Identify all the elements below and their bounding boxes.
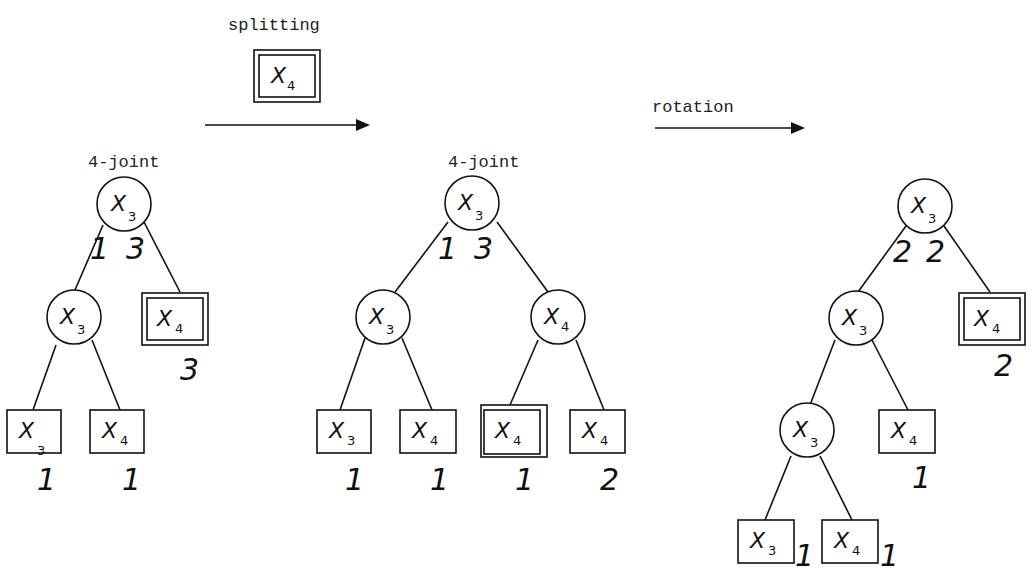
svg-text:4: 4 — [430, 433, 438, 448]
tree1-lr-leaf-count: 1 — [122, 462, 141, 497]
tree3-right-leaf-double-box: X 4 — [959, 293, 1025, 345]
svg-text:X: X — [910, 193, 927, 218]
tree1-ll-leaf: X 3 — [7, 410, 61, 458]
tree-1-before-splitting: 4-joint X 3 1 3 X 3 X 4 3 X — [7, 153, 208, 497]
tree3-llr-leaf-count: 1 — [880, 538, 899, 572]
tree3-lll-leaf: X 3 — [738, 520, 794, 563]
tree2-rr-leaf: X 4 — [570, 410, 625, 453]
tree1-root-right-weight: 3 — [126, 231, 145, 266]
svg-text:3: 3 — [810, 435, 818, 450]
tree3-lr-leaf-count: 1 — [912, 460, 931, 495]
tree1-right-leaf-double-box: X 4 — [142, 293, 208, 345]
tree1-root-left-weight: 1 — [90, 231, 109, 266]
svg-text:3: 3 — [347, 433, 355, 448]
split-item-double-box: X 4 — [254, 50, 320, 102]
svg-text:X: X — [494, 418, 511, 443]
svg-text:X: X — [749, 528, 766, 553]
rotation-label: rotation — [652, 98, 734, 117]
tree3-root-right-weight: 2 — [926, 234, 945, 269]
svg-text:3: 3 — [37, 443, 45, 458]
tree1-lr-leaf: X 4 — [90, 410, 144, 453]
svg-text:X: X — [543, 304, 560, 329]
splitting-label: splitting — [228, 16, 320, 35]
svg-text:3: 3 — [77, 322, 85, 337]
four-joint-label-middle: 4-joint — [448, 153, 519, 172]
svg-text:X: X — [18, 418, 35, 443]
svg-text:4: 4 — [992, 321, 1000, 336]
svg-text:X: X — [101, 418, 118, 443]
four-joint-label-left: 4-joint — [88, 153, 159, 172]
svg-text:3: 3 — [928, 211, 936, 226]
svg-text:4: 4 — [287, 78, 295, 93]
svg-text:3: 3 — [386, 322, 394, 337]
svg-text:X: X — [890, 418, 907, 443]
svg-text:X: X — [973, 306, 990, 331]
tree3-left-node: X 3 — [829, 291, 883, 345]
tree1-ll-leaf-count: 1 — [37, 462, 56, 497]
svg-text:4: 4 — [513, 433, 521, 448]
svg-text:4: 4 — [175, 321, 183, 336]
tree2-root-left-weight: 1 — [438, 231, 457, 266]
svg-text:4: 4 — [909, 433, 917, 448]
svg-text:X: X — [328, 418, 345, 443]
svg-text:X: X — [833, 528, 850, 553]
svg-text:3: 3 — [859, 323, 867, 338]
svg-text:X: X — [581, 418, 598, 443]
svg-text:X: X — [156, 306, 173, 331]
tree3-root-left-weight: 2 — [893, 234, 912, 269]
tree2-rr-leaf-count: 2 — [600, 462, 619, 497]
tree-2-after-splitting: 4-joint X 3 1 3 X 3 X 4 X 3 1 — [317, 153, 625, 497]
tree3-right-leaf-count: 2 — [994, 348, 1013, 383]
tree3-root-node: X 3 — [898, 179, 952, 233]
svg-text:X: X — [59, 304, 76, 329]
svg-text:3: 3 — [128, 209, 136, 224]
tree3-lr-leaf: X 4 — [879, 410, 935, 453]
tree2-root-node: X 3 — [445, 176, 499, 230]
tree2-right-node: X 4 — [531, 290, 585, 344]
svg-text:X: X — [792, 417, 809, 442]
tree-3-after-rotation: X 3 2 2 X 3 X 4 2 X 3 X 4 1 X — [738, 179, 1025, 572]
svg-text:X: X — [457, 190, 474, 215]
tree2-root-right-weight: 3 — [474, 231, 493, 266]
svg-text:4: 4 — [600, 433, 608, 448]
tree3-llr-leaf: X 4 — [822, 520, 878, 563]
tree3-lll-leaf-count: 1 — [795, 538, 814, 572]
svg-text:4: 4 — [561, 319, 569, 334]
svg-text:3: 3 — [768, 543, 776, 558]
tree3-ll-node: X 3 — [780, 403, 834, 457]
svg-text:4: 4 — [852, 543, 860, 558]
svg-text:X: X — [110, 191, 127, 216]
svg-text:X: X — [411, 418, 428, 443]
svg-text:X: X — [841, 305, 858, 330]
svg-text:X: X — [270, 63, 287, 88]
tree2-rl-leaf-count: 1 — [515, 462, 534, 497]
svg-text:4: 4 — [120, 433, 128, 448]
tree1-left-node: X 3 — [47, 290, 101, 344]
tree2-ll-leaf-count: 1 — [345, 462, 364, 497]
tree1-right-leaf-count: 3 — [180, 352, 199, 387]
tree2-left-node: X 3 — [356, 290, 410, 344]
tree2-lr-leaf: X 4 — [400, 410, 456, 453]
svg-text:3: 3 — [475, 208, 483, 223]
tree1-root-node: X 3 — [97, 177, 151, 231]
svg-text:X: X — [368, 304, 385, 329]
tree2-ll-leaf: X 3 — [317, 410, 371, 453]
tree-transformation-diagram: splitting X 4 rotation 4-joint X 3 1 3 X… — [0, 0, 1032, 572]
tree2-lr-leaf-count: 1 — [430, 462, 449, 497]
tree2-rl-leaf-double-box: X 4 — [481, 405, 547, 457]
